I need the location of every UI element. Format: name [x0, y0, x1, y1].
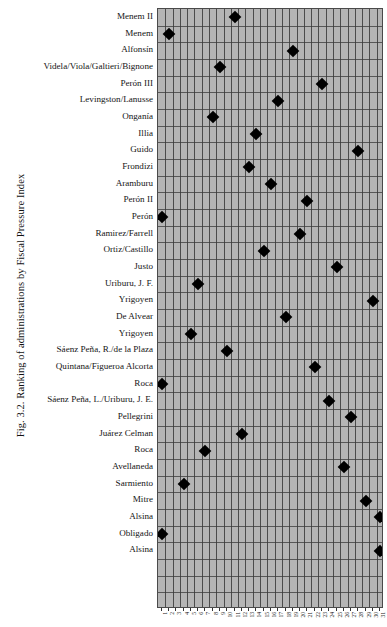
x-axis-tick: [219, 608, 220, 611]
y-axis-label: Aramburu: [22, 175, 153, 192]
data-point-marker: [199, 444, 212, 457]
y-axis-label: Perón III: [22, 75, 153, 92]
data-point-marker: [279, 311, 292, 324]
y-axis-label: Menem II: [22, 8, 153, 25]
x-axis-tick: [314, 608, 315, 611]
x-axis-label: 25: [338, 612, 344, 618]
x-axis-tick: [226, 608, 227, 611]
x-axis-tick: [277, 608, 278, 611]
y-axis-label: Frondizi: [22, 158, 153, 175]
data-point-marker: [367, 294, 380, 307]
y-axis-label: Sarmiento: [22, 475, 153, 492]
x-axis-label: 16: [272, 612, 278, 618]
data-point-marker: [359, 494, 372, 507]
x-axis-label: 20: [301, 612, 307, 618]
x-axis-tick: [328, 608, 329, 611]
x-axis-tick: [306, 608, 307, 611]
data-point-marker: [352, 144, 365, 157]
data-point-marker: [308, 361, 321, 374]
y-axis-label: Perón II: [22, 191, 153, 208]
x-axis-tick: [379, 608, 380, 611]
y-axis-label: Roca: [22, 375, 153, 392]
y-axis-labels: Menem IIMenemAlfonsínVidela/Viola/Galtie…: [22, 8, 155, 608]
y-axis-label: Alsina: [22, 508, 153, 525]
y-axis-label: Mitre: [22, 491, 153, 508]
data-point-marker: [221, 344, 234, 357]
y-axis-label: Uriburu, J. F.: [22, 275, 153, 292]
x-axis-label: 3: [177, 612, 183, 615]
y-axis-label: Ramirez/Farrell: [22, 225, 153, 242]
x-axis-label: 1: [163, 612, 169, 615]
x-axis-tick: [241, 608, 242, 611]
x-axis-label: 5: [192, 612, 198, 615]
x-axis-tick: [190, 608, 191, 611]
x-axis-label: 31: [381, 612, 387, 618]
y-axis-label: Levingston/Lanusse: [22, 91, 153, 108]
data-point-marker: [257, 244, 270, 257]
x-axis-tick: [350, 608, 351, 611]
y-axis-label: Perón: [22, 208, 153, 225]
y-axis-label: De Alvear: [22, 308, 153, 325]
x-axis-tick: [248, 608, 249, 611]
x-axis-label: 21: [308, 612, 314, 618]
x-axis-label: 9: [221, 612, 227, 615]
y-axis-label: Juárez Celman: [22, 425, 153, 442]
y-axis-label: Illia: [22, 125, 153, 142]
data-markers: [158, 9, 382, 607]
y-axis-label: Guido: [22, 141, 153, 158]
data-point-marker: [338, 461, 351, 474]
x-axis-tick: [336, 608, 337, 611]
y-axis-label: Pellegrini: [22, 408, 153, 425]
x-axis-tick: [161, 608, 162, 611]
x-axis-label: 17: [279, 612, 285, 618]
data-point-marker: [330, 261, 343, 274]
x-axis-label: 18: [287, 612, 293, 618]
data-point-marker: [163, 28, 176, 41]
x-axis-label: 19: [294, 612, 300, 618]
x-axis-labels: 1234567891011121314151617181920212223242…: [157, 608, 383, 627]
y-axis-label: Onganía: [22, 108, 153, 125]
data-point-marker: [157, 528, 168, 541]
y-axis-label: Sáenz Peña, R./de la Plaza: [22, 341, 153, 358]
x-axis-label: 13: [250, 612, 256, 618]
y-axis-label: Menem: [22, 25, 153, 42]
x-axis-label: 12: [243, 612, 249, 618]
y-axis-label: Videla/Viola/Galtieri/Bignone: [22, 58, 153, 75]
data-point-marker: [235, 428, 248, 441]
x-axis-tick: [168, 608, 169, 611]
data-point-marker: [184, 328, 197, 341]
x-axis-tick: [212, 608, 213, 611]
x-axis-label: 10: [228, 612, 234, 618]
x-axis-tick: [204, 608, 205, 611]
data-point-marker: [272, 94, 285, 107]
data-point-marker: [374, 511, 383, 524]
data-point-marker: [374, 544, 383, 557]
y-axis-label: Alfonsín: [22, 41, 153, 58]
x-axis-tick: [357, 608, 358, 611]
x-axis-label: 28: [359, 612, 365, 618]
x-axis-tick: [343, 608, 344, 611]
x-axis-label: 22: [316, 612, 322, 618]
x-axis-tick: [292, 608, 293, 611]
y-axis-label: Yrigoyen: [22, 291, 153, 308]
data-point-marker: [157, 378, 168, 391]
x-axis-label: 26: [345, 612, 351, 618]
data-point-marker: [294, 228, 307, 241]
y-axis-label: Quintana/Figueroa Alcorta: [22, 358, 153, 375]
y-axis-label: Justo: [22, 258, 153, 275]
data-point-marker: [301, 194, 314, 207]
x-axis-label: 14: [257, 612, 263, 618]
y-axis-label: Avellaneda: [22, 458, 153, 475]
x-axis-label: 24: [330, 612, 336, 618]
data-point-marker: [316, 78, 329, 91]
y-axis-label: Yrigoyen: [22, 325, 153, 342]
y-axis-label: Obligado: [22, 525, 153, 542]
x-axis-label: 15: [265, 612, 271, 618]
x-axis-label: 11: [236, 612, 242, 617]
y-axis-label: Sáenz Peña, L./Uriburu, J. E.: [22, 391, 153, 408]
x-axis-tick: [365, 608, 366, 611]
x-axis-tick: [255, 608, 256, 611]
y-axis-label: Alsina: [22, 541, 153, 558]
plot-area: [157, 8, 383, 608]
x-axis-tick: [263, 608, 264, 611]
